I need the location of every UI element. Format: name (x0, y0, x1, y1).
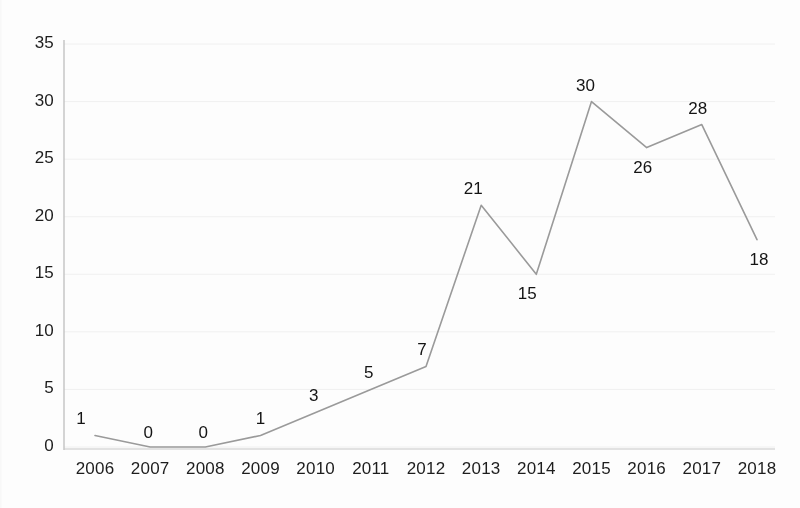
x-axis-tick-label: 2009 (231, 459, 291, 479)
x-axis-tick-label: 2013 (451, 459, 511, 479)
data-point-label: 0 (128, 423, 168, 443)
data-point-label: 30 (566, 76, 606, 96)
plot-area (0, 0, 800, 508)
line-chart: 35302520151050 2006200720082009201020112… (0, 0, 800, 508)
data-point-label: 7 (402, 340, 442, 360)
data-point-label: 28 (678, 99, 718, 119)
data-point-label: 18 (739, 250, 779, 270)
data-point-label: 15 (507, 284, 547, 304)
x-axis-tick-label: 2014 (506, 459, 566, 479)
x-axis-tick-label: 2010 (286, 459, 346, 479)
data-point-label: 0 (183, 423, 223, 443)
x-axis-tick-label: 2012 (396, 459, 456, 479)
x-axis-tick-label: 2007 (120, 459, 180, 479)
data-point-label: 21 (453, 179, 493, 199)
x-axis-tick-label: 2017 (672, 459, 732, 479)
x-axis-tick-label: 2011 (341, 459, 401, 479)
gridlines (64, 44, 775, 447)
x-axis-tick-label: 2018 (727, 459, 787, 479)
data-point-label: 26 (623, 158, 663, 178)
data-point-label: 5 (349, 363, 389, 383)
x-axis-tick-label: 2016 (617, 459, 677, 479)
x-axis-tick-label: 2006 (65, 459, 125, 479)
x-axis-tick-label: 2008 (175, 459, 235, 479)
x-axis-tick-label: 2015 (562, 459, 622, 479)
data-point-label: 1 (241, 409, 281, 429)
data-point-label: 3 (294, 386, 334, 406)
data-point-label: 1 (61, 409, 101, 429)
